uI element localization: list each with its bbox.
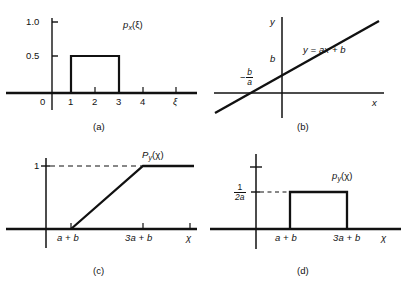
x-tick-label-0: 0: [40, 97, 45, 107]
x-axis-label-chi: χ: [381, 233, 386, 243]
x-tick-label-3a-plus-b: 3a + b: [125, 233, 152, 243]
x-tick-label-2: 2: [92, 97, 97, 107]
panel-a: 1.0 0.5 0 1 2 3 4 ξ px(ξ) (a): [0, 0, 203, 143]
curve-label-argument: (χ): [341, 170, 353, 181]
x-tick-label-a-plus-b: a + b: [57, 233, 79, 243]
curve-label-argument: (ξ): [132, 19, 143, 30]
x-tick-label-a-plus-b: a + b: [275, 233, 297, 243]
x-intercept-label: −ba: [240, 68, 253, 87]
x-intercept-numerator: b: [246, 68, 253, 77]
line-equation-label: y = ax + b: [303, 45, 346, 55]
figure-container: 1.0 0.5 0 1 2 3 4 ξ px(ξ) (a) y x b −ba: [0, 0, 407, 287]
y-tick-denominator: 2a: [234, 192, 246, 202]
panel-caption-b: (b): [297, 121, 309, 132]
curve-label-argument: (χ): [152, 149, 164, 160]
x-tick-label-3: 3: [116, 97, 121, 107]
panel-caption-d: (d): [297, 265, 309, 276]
panel-b: y x b −ba y = ax + b (b): [204, 0, 407, 143]
cdf-ramp-curve: [71, 166, 194, 229]
x-axis-label: x: [372, 98, 377, 108]
panel-caption-a: (a): [93, 121, 105, 132]
panel-c: 1 a + b 3a + b χ Py(χ) (c): [0, 144, 203, 287]
y-tick-label-1: 1: [34, 161, 39, 171]
y-tick-label-one-over-2a: 12a: [234, 183, 246, 202]
line-y-equals-ax-plus-b: [215, 21, 379, 113]
x-tick-label-4: 4: [140, 97, 145, 107]
panel-d: 12a a + b 3a + b χ py(χ) (d): [204, 144, 407, 287]
x-tick-label-3a-plus-b: 3a + b: [333, 233, 360, 243]
curve-label-px: px(ξ): [123, 20, 143, 31]
pdf-rectangle-outline: [290, 192, 347, 229]
x-intercept-sign: −: [240, 73, 246, 83]
curve-label-Py: Py(χ): [142, 150, 164, 161]
y-axis-label: y: [270, 17, 275, 27]
x-axis-label-xi: ξ: [173, 97, 177, 107]
panel-caption-c: (c): [93, 265, 104, 276]
y-intercept-label-b: b: [270, 54, 275, 64]
curve-label-py: py(χ): [332, 171, 353, 182]
y-tick-label-0.5: 0.5: [26, 51, 40, 61]
x-intercept-denominator: a: [246, 77, 253, 87]
y-tick-numerator: 1: [234, 183, 246, 192]
x-tick-label-1: 1: [68, 97, 73, 107]
y-tick-label-1.0: 1.0: [26, 17, 40, 27]
x-axis-label-chi: χ: [186, 233, 191, 243]
